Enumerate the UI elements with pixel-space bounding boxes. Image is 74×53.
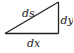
horizontal-label: dx (27, 37, 41, 50)
hypotenuse-label: ds (22, 7, 35, 20)
vertical-label: dy (61, 14, 74, 27)
triangle-diagram: ds dy dx (0, 0, 73, 53)
